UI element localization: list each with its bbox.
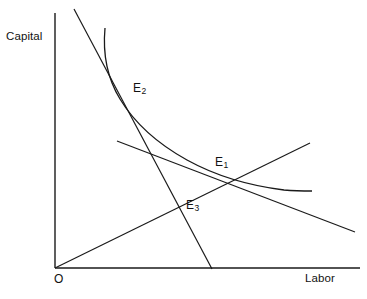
isocost-line-shallow xyxy=(117,141,355,232)
point-label-e2-letter: E xyxy=(133,81,141,95)
point-label-e1-subscript: 1 xyxy=(223,160,228,170)
point-label-e3: E3 xyxy=(186,198,199,212)
isocost-line-steep xyxy=(74,9,212,269)
point-label-e1-letter: E xyxy=(215,155,223,169)
y-axis-label: Capital xyxy=(6,30,43,42)
isoquant-isocost-figure: Capital Labor O E1 E2 E3 xyxy=(0,0,367,299)
point-label-e3-subscript: 3 xyxy=(194,203,199,213)
point-label-e3-letter: E xyxy=(186,198,194,212)
plot-canvas xyxy=(0,0,367,299)
x-axis-label: Labor xyxy=(305,272,335,284)
point-label-e1: E1 xyxy=(215,155,228,169)
isoquant-curve xyxy=(104,28,312,191)
point-label-e2: E2 xyxy=(133,81,146,95)
origin-label: O xyxy=(54,272,63,286)
expansion-path-ray xyxy=(55,143,310,268)
point-label-e2-subscript: 2 xyxy=(141,86,146,96)
